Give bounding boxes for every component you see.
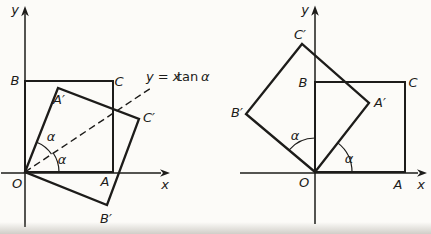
vertex-a-label: A xyxy=(393,177,403,192)
equation-lhs: y = x xyxy=(145,69,181,84)
x-axis-label: x xyxy=(160,177,169,192)
vertex-a-prime-label: A′ xyxy=(373,95,386,110)
square-transformation-diagrams: y x O B C A A′ C′ B′ α α y = x tan α xyxy=(0,0,431,234)
y-axis-label: y xyxy=(300,2,309,17)
reflected-square xyxy=(25,88,139,205)
vertex-c-label: C xyxy=(408,75,418,90)
alpha-left-label: α xyxy=(291,128,300,143)
vertex-c-prime-label: C′ xyxy=(294,27,306,42)
vertex-a-prime-label: A′ xyxy=(52,92,65,107)
x-axis-arrow-icon xyxy=(417,169,427,177)
original-square xyxy=(25,81,113,172)
origin-label: O xyxy=(299,175,309,190)
line-equation: y = x tan α xyxy=(145,69,210,84)
left-figure: y x O B C A A′ C′ B′ α α y = x tan α xyxy=(1,2,210,227)
vertex-a-label: A xyxy=(100,174,110,189)
x-axis-label: x xyxy=(416,177,425,192)
page-bottom-scan-shadow xyxy=(0,222,431,234)
alpha-lower-label: α xyxy=(58,152,67,167)
equation-argument: α xyxy=(201,69,210,84)
geometry-figure-page: y x O B C A A′ C′ B′ α α y = x tan α xyxy=(0,0,431,234)
vertex-b-label: B xyxy=(11,73,20,88)
alpha-upper-label: α xyxy=(47,129,56,144)
vertex-b-prime-label: B′ xyxy=(231,105,243,120)
alpha-right-label: α xyxy=(345,151,354,166)
vertex-b-label: B xyxy=(299,75,308,90)
right-figure: y x O A B C A′ B′ C′ α α xyxy=(231,2,427,224)
y-axis-label: y xyxy=(10,2,19,17)
vertex-c-prime-label: C′ xyxy=(143,110,155,125)
equation-function: tan xyxy=(177,69,198,84)
x-axis-arrow-icon xyxy=(160,169,170,177)
origin-label: O xyxy=(12,176,22,191)
vertex-c-label: C xyxy=(114,74,124,89)
